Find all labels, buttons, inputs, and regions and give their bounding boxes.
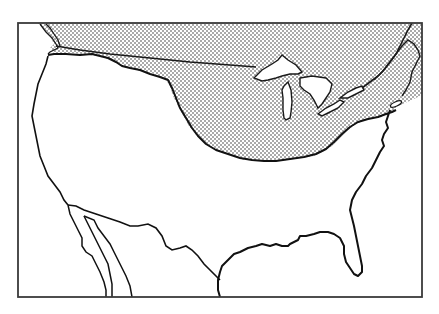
map-canvas [0, 0, 439, 314]
lake-michigan [282, 82, 292, 120]
shaded-region [37, 23, 422, 161]
gulf-of-california-outline [84, 216, 132, 297]
mexico-border [68, 205, 220, 280]
west-coast-outline [32, 56, 68, 205]
